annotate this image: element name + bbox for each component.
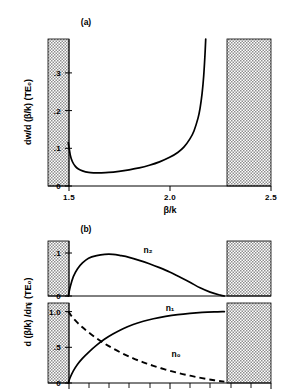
- panel-a-ytick-1: .1: [54, 144, 62, 153]
- panel-a-title: (a): [81, 17, 92, 27]
- panel-a-yaxis-label: dw/d (β/k) (TE₀): [23, 79, 33, 145]
- panel-b-lower-ytick-0: 0: [56, 379, 61, 388]
- panel-a-xaxis-label: β/k: [164, 205, 178, 215]
- panel-b-lower-shaded-right: [227, 303, 271, 383]
- panel-b-lower-ytick-2: 1.0: [49, 308, 61, 317]
- panel-a-xtick-2: 2.5: [265, 193, 277, 202]
- panel-a-ytick-2: .2: [54, 107, 62, 116]
- panel-b-upper-ytick-1: .1: [54, 249, 62, 258]
- panel-b-label-n0: n₀: [171, 349, 180, 359]
- panel-b-upper-ytick-0: 0: [56, 292, 61, 301]
- panel-b-upper-shaded-right: [227, 241, 271, 296]
- panel-a-ytick-0: 0: [56, 182, 61, 191]
- figure-svg: (a) 0 .1 .2 .3: [0, 0, 283, 390]
- panel-b-label-n1: n₁: [166, 303, 175, 313]
- panel-a-ytick-3: .3: [54, 69, 62, 78]
- panel-b-label-n2: n₂: [144, 245, 153, 255]
- panel-a-xtick-0: 1.5: [63, 193, 75, 202]
- figure-container: (a) 0 .1 .2 .3: [0, 0, 283, 390]
- panel-b-title: (b): [81, 224, 92, 234]
- panel-b-yaxis-label: d (β/k) /dnⱼ (TE₀): [23, 277, 33, 346]
- panel-b-lower-ytick-1: .5: [54, 343, 62, 352]
- panel-a-shaded-right: [227, 39, 271, 186]
- panel-a-xtick-1: 2.0: [164, 193, 176, 202]
